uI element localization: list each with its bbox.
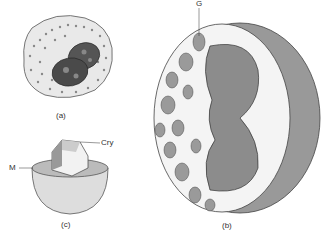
- callout-m-label: M: [9, 164, 16, 172]
- figure-canvas: [0, 0, 327, 234]
- panel-b-label: (b): [222, 222, 232, 230]
- callout-cry-label: Cry: [101, 139, 113, 147]
- panel-c-label: (c): [61, 221, 70, 229]
- callout-g-label: G: [196, 0, 202, 8]
- panel-c-granule: [19, 140, 108, 214]
- panel-b-cell: [154, 8, 320, 213]
- panel-a-label: (a): [56, 112, 66, 120]
- panel-a-cell: [24, 16, 113, 98]
